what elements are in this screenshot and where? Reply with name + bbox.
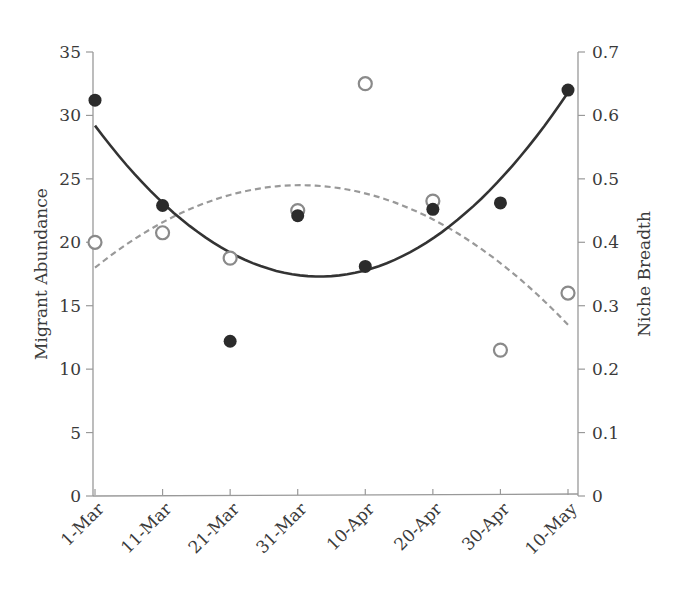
right-tick-label: 0.7 [592,42,619,62]
niche-breadth-points [89,77,575,356]
right-tick-label: 0.5 [592,169,619,189]
x-tick-label: 11-Mar [117,498,176,557]
right-tick-label: 0 [592,486,603,506]
x-tick-label: 30-Apr [458,498,514,554]
right-y-ticks: 00.10.20.30.40.50.60.7 [578,42,619,506]
x-tick-label: 1-Mar [57,498,109,550]
left-tick-label: 10 [59,359,81,379]
x-tick-label: 10-May [521,498,581,558]
left-tick-label: 35 [59,42,81,62]
right-tick-label: 0.4 [592,232,619,252]
abundance-trendline [95,93,568,277]
niche-breadth-point [89,236,102,249]
abundance-point [89,94,102,107]
niche-breadth-point [494,344,507,357]
right-tick-label: 0.6 [592,105,619,125]
plot-frame [93,52,578,496]
x-tick-label: 10-Apr [322,498,378,554]
left-y-ticks: 05101520253035 [59,42,93,506]
left-axis-title: Migrant Abundance [31,188,51,360]
abundance-point [562,84,575,97]
x-ticks: 1-Mar11-Mar21-Mar31-Mar10-Apr20-Apr30-Ap… [57,489,581,558]
niche-breadth-point [359,77,372,90]
niche-breadth-point [562,287,575,300]
right-axis-title: Niche Breadth [634,211,654,337]
abundance-point [426,203,439,216]
right-tick-label: 0.1 [592,423,619,443]
left-tick-label: 15 [59,296,81,316]
left-tick-label: 30 [59,105,81,125]
left-tick-label: 5 [70,423,81,443]
abundance-point [224,335,237,348]
chart: 05101520253035 00.10.20.30.40.50.60.7 1-… [0,0,674,609]
right-tick-label: 0.2 [592,359,619,379]
abundance-point [494,196,507,209]
x-tick-label: 31-Mar [252,498,311,557]
abundance-point [291,209,304,222]
abundance-point [359,260,372,273]
left-tick-label: 25 [59,169,81,189]
right-tick-label: 0.3 [592,296,619,316]
niche-breadth-point [156,226,169,239]
x-tick-label: 21-Mar [184,498,243,557]
left-tick-label: 20 [59,232,81,252]
x-axis [93,494,578,496]
niche-breadth-point [224,252,237,265]
left-tick-label: 0 [70,486,81,506]
abundance-point [156,199,169,212]
x-tick-label: 20-Apr [390,498,446,554]
abundance-points [89,84,575,348]
